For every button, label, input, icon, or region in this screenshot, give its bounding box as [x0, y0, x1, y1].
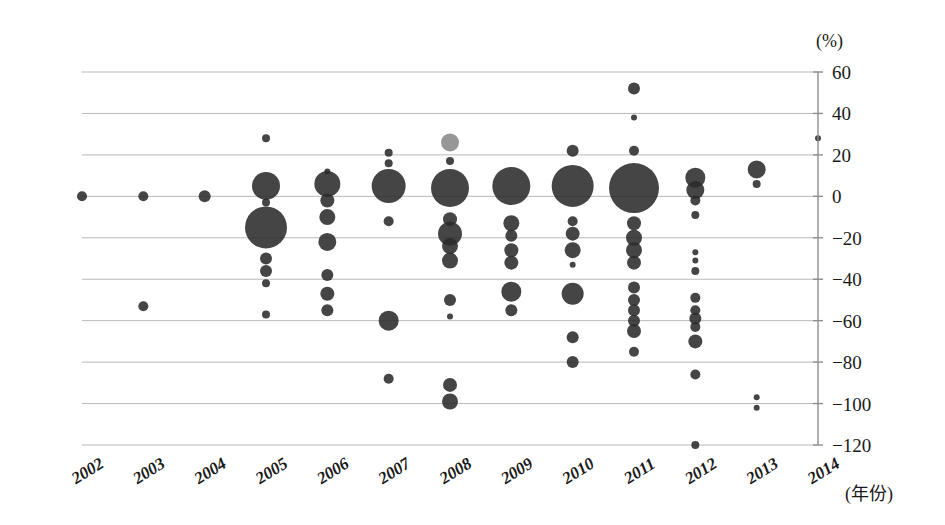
x-tick-group-2002: 2002	[67, 454, 107, 489]
bubble-point	[262, 279, 270, 287]
y-tick-label--120: −120	[832, 435, 871, 456]
y-tick-label--20: −20	[832, 228, 862, 249]
bubble-point	[431, 169, 469, 207]
bubble-point	[199, 190, 211, 202]
bubble-point	[314, 171, 340, 197]
bubble-point	[444, 294, 456, 306]
bubble-point	[754, 405, 760, 411]
chart-canvas: 6040200−20−40−60−80−100−120 200220032004…	[0, 0, 945, 525]
bubble-group-2002	[77, 191, 87, 201]
x-tick-label-2014: 2014	[803, 454, 843, 489]
x-tick-group-2003: 2003	[129, 454, 169, 489]
x-tick-group-2011: 2011	[620, 454, 659, 488]
bubble-point	[262, 199, 270, 207]
bubble-point	[754, 394, 760, 400]
bubble-group-2004	[199, 190, 211, 202]
bubble-point	[753, 180, 761, 188]
bubble-point	[318, 233, 336, 251]
x-tick-group-2014: 2014	[803, 454, 843, 489]
bubble-point	[446, 157, 454, 165]
bubble-point	[320, 287, 334, 301]
y-tick-label--60: −60	[832, 311, 862, 332]
bubble-point	[692, 258, 698, 264]
bubble-point	[492, 167, 530, 205]
x-tick-label-2008: 2008	[435, 454, 475, 489]
y-tick-label-60: 60	[832, 62, 851, 83]
bubble-point	[688, 334, 702, 348]
bubble-point	[138, 301, 148, 311]
bubble-point	[627, 324, 641, 338]
bubble-point	[629, 146, 639, 156]
bubble-point	[503, 215, 519, 231]
bubble-point	[441, 133, 459, 151]
y-tick-label-20: 20	[832, 145, 851, 166]
bubble-point	[628, 282, 640, 294]
y-tick-label--80: −80	[832, 352, 862, 373]
bubble-point	[252, 172, 280, 200]
bubble-point	[505, 304, 517, 316]
x-tick-group-2008: 2008	[435, 454, 475, 489]
x-tick-group-2010: 2010	[558, 454, 598, 489]
bubble-group-2010	[552, 145, 594, 368]
bubble-point	[552, 165, 594, 207]
bubble-group-2008	[431, 133, 469, 409]
x-tick-label-2011: 2011	[620, 454, 659, 488]
y-axis	[813, 72, 823, 445]
bubble-group-2011	[609, 83, 659, 357]
bubble-point	[627, 256, 641, 270]
bubble-point	[442, 253, 458, 269]
bubble-point	[321, 269, 333, 281]
bubble-point	[690, 322, 700, 332]
bubble-point	[319, 209, 335, 225]
bubble-group-2007	[372, 149, 406, 384]
bubble-group-2003	[138, 191, 148, 311]
bubble-point	[260, 265, 272, 277]
bubble-point	[260, 253, 272, 265]
bubble-point	[245, 206, 287, 248]
bubble-point	[442, 393, 458, 409]
bubble-point	[562, 283, 584, 305]
x-tick-label-2009: 2009	[497, 454, 537, 489]
x-axis-title-label: (年份)	[845, 484, 893, 505]
bubble-group-2009	[492, 167, 530, 316]
x-tick-label-2012: 2012	[681, 454, 721, 489]
bubble-point	[384, 374, 394, 384]
bubble-point	[690, 195, 700, 205]
bubble-point	[565, 242, 581, 258]
bubble-point	[567, 356, 579, 368]
bubble-point	[628, 304, 640, 316]
bubble-group-2013	[748, 160, 766, 410]
x-tick-label-2013: 2013	[742, 454, 782, 489]
x-tick-label-2004: 2004	[190, 454, 230, 489]
bubble-point	[501, 282, 521, 302]
bubble-point	[504, 256, 518, 270]
x-tick-group-2005: 2005	[251, 454, 291, 489]
bubble-point	[372, 169, 406, 203]
bubble-point	[505, 230, 517, 242]
bubble-chart: 6040200−20−40−60−80−100−120 200220032004…	[0, 0, 945, 525]
y-tick-label-40: 40	[832, 103, 851, 124]
bubble-group-2006	[314, 168, 340, 316]
bubble-point	[568, 216, 578, 226]
y-tick-label-0: 0	[832, 186, 842, 207]
bubble-point	[567, 145, 579, 157]
x-tick-group-2009: 2009	[497, 454, 537, 489]
bubble-point	[631, 115, 637, 121]
bubble-point	[570, 262, 576, 268]
bubble-layer	[77, 83, 821, 449]
y-tick-label--40: −40	[832, 269, 862, 290]
x-tick-group-2013: 2013	[742, 454, 782, 489]
bubble-point	[262, 310, 270, 318]
x-tick-label-2002: 2002	[67, 454, 107, 489]
y-axis-unit-label: (%)	[816, 31, 843, 52]
bubble-point	[567, 331, 579, 343]
x-tick-label-2007: 2007	[374, 453, 415, 488]
bubble-point	[690, 293, 700, 303]
bubble-point	[691, 267, 699, 275]
x-tick-group-2006: 2006	[313, 454, 353, 489]
bubble-point	[321, 304, 333, 316]
x-tick-label-2010: 2010	[558, 454, 598, 489]
bubble-point	[692, 249, 698, 255]
bubble-point	[138, 191, 148, 201]
x-tick-group-2004: 2004	[190, 454, 230, 489]
